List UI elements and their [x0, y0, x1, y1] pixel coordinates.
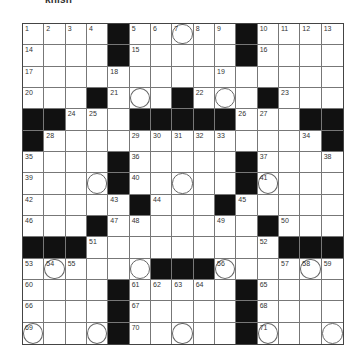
grid-cell[interactable]: 63 [172, 280, 193, 301]
grid-cell[interactable] [194, 45, 215, 66]
grid-cell[interactable] [300, 301, 321, 322]
grid-cell[interactable] [236, 88, 257, 109]
grid-cell[interactable] [44, 195, 65, 216]
grid-cell[interactable] [279, 280, 300, 301]
grid-cell[interactable] [87, 280, 108, 301]
grid-cell[interactable] [172, 67, 193, 88]
grid-cell[interactable]: 9 [215, 24, 236, 45]
grid-cell[interactable] [258, 195, 279, 216]
grid-cell[interactable] [130, 237, 151, 258]
grid-cell[interactable]: 55 [66, 259, 87, 280]
grid-cell[interactable] [151, 67, 172, 88]
grid-cell[interactable]: 24 [66, 109, 87, 130]
grid-cell[interactable]: 53 [23, 259, 44, 280]
grid-cell[interactable] [300, 195, 321, 216]
grid-cell[interactable]: 22 [194, 88, 215, 109]
grid-cell[interactable] [66, 173, 87, 194]
grid-cell[interactable] [66, 45, 87, 66]
grid-cell[interactable]: 64 [194, 280, 215, 301]
grid-cell[interactable] [279, 152, 300, 173]
grid-cell[interactable]: 46 [23, 216, 44, 237]
grid-cell[interactable]: 68 [258, 301, 279, 322]
grid-cell[interactable] [300, 216, 321, 237]
grid-cell[interactable] [279, 109, 300, 130]
grid-cell[interactable] [44, 280, 65, 301]
grid-cell[interactable] [215, 88, 236, 109]
grid-cell[interactable]: 5 [130, 24, 151, 45]
grid-cell[interactable] [108, 109, 129, 130]
grid-cell[interactable] [300, 88, 321, 109]
grid-cell[interactable]: 41 [258, 173, 279, 194]
grid-cell[interactable]: 4 [87, 24, 108, 45]
grid-cell[interactable] [87, 259, 108, 280]
grid-cell[interactable] [215, 280, 236, 301]
grid-cell[interactable] [44, 323, 65, 344]
grid-cell[interactable]: 23 [279, 88, 300, 109]
grid-cell[interactable] [279, 323, 300, 344]
grid-cell[interactable]: 17 [23, 67, 44, 88]
grid-cell[interactable] [172, 173, 193, 194]
grid-cell[interactable] [322, 301, 343, 322]
grid-cell[interactable] [108, 259, 129, 280]
grid-cell[interactable] [87, 173, 108, 194]
grid-cell[interactable]: 52 [258, 237, 279, 258]
grid-cell[interactable] [87, 152, 108, 173]
grid-cell[interactable] [172, 45, 193, 66]
grid-cell[interactable] [279, 195, 300, 216]
grid-cell[interactable] [44, 216, 65, 237]
grid-cell[interactable] [130, 67, 151, 88]
grid-cell[interactable] [44, 173, 65, 194]
grid-cell[interactable] [151, 45, 172, 66]
grid-cell[interactable] [151, 88, 172, 109]
grid-cell[interactable]: 25 [87, 109, 108, 130]
grid-cell[interactable]: 70 [130, 323, 151, 344]
grid-cell[interactable] [300, 152, 321, 173]
grid-cell[interactable]: 19 [215, 67, 236, 88]
grid-cell[interactable] [300, 67, 321, 88]
grid-cell[interactable] [279, 67, 300, 88]
grid-cell[interactable] [194, 173, 215, 194]
grid-cell[interactable] [151, 301, 172, 322]
grid-cell[interactable] [300, 280, 321, 301]
grid-cell[interactable] [236, 216, 257, 237]
grid-cell[interactable] [322, 173, 343, 194]
grid-cell[interactable]: 14 [23, 45, 44, 66]
grid-cell[interactable] [322, 280, 343, 301]
grid-cell[interactable] [44, 88, 65, 109]
grid-cell[interactable]: 47 [108, 216, 129, 237]
grid-cell[interactable]: 32 [194, 131, 215, 152]
grid-cell[interactable] [44, 301, 65, 322]
grid-cell[interactable]: 42 [23, 195, 44, 216]
grid-cell[interactable]: 59 [322, 259, 343, 280]
grid-cell[interactable]: 7 [172, 24, 193, 45]
grid-cell[interactable] [279, 131, 300, 152]
grid-cell[interactable]: 15 [130, 45, 151, 66]
grid-cell[interactable] [236, 259, 257, 280]
grid-cell[interactable]: 56 [215, 259, 236, 280]
grid-cell[interactable]: 57 [279, 259, 300, 280]
grid-cell[interactable] [322, 45, 343, 66]
grid-cell[interactable]: 26 [236, 109, 257, 130]
grid-cell[interactable]: 48 [130, 216, 151, 237]
grid-cell[interactable]: 20 [23, 88, 44, 109]
grid-cell[interactable] [236, 131, 257, 152]
grid-cell[interactable]: 66 [23, 301, 44, 322]
grid-cell[interactable]: 71 [258, 323, 279, 344]
grid-cell[interactable] [151, 152, 172, 173]
grid-cell[interactable] [194, 237, 215, 258]
grid-cell[interactable] [66, 88, 87, 109]
grid-cell[interactable]: 18 [108, 67, 129, 88]
grid-cell[interactable]: 1 [23, 24, 44, 45]
grid-cell[interactable] [194, 195, 215, 216]
grid-cell[interactable] [87, 131, 108, 152]
grid-cell[interactable] [322, 216, 343, 237]
grid-cell[interactable] [194, 216, 215, 237]
grid-cell[interactable] [215, 152, 236, 173]
grid-cell[interactable] [130, 259, 151, 280]
grid-cell[interactable] [66, 323, 87, 344]
grid-cell[interactable] [87, 195, 108, 216]
grid-cell[interactable] [66, 280, 87, 301]
grid-cell[interactable]: 12 [300, 24, 321, 45]
grid-cell[interactable]: 38 [322, 152, 343, 173]
grid-cell[interactable] [87, 67, 108, 88]
